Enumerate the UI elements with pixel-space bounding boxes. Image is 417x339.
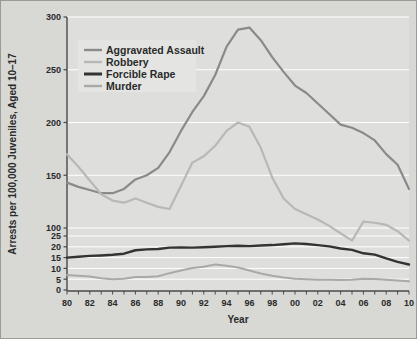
x-tick-label: 92 <box>199 298 209 308</box>
x-tick-label: 88 <box>153 298 163 308</box>
chart-figure: 1001502002503000510152025808284868890929… <box>0 0 417 339</box>
y-tick-label: 25 <box>51 231 61 241</box>
legend-label-2: Forcible Rape <box>106 68 176 80</box>
legend-label-1: Robbery <box>106 56 149 68</box>
x-tick-label: 04 <box>336 298 346 308</box>
x-tick-label: 06 <box>358 298 368 308</box>
line-chart: 1001502002503000510152025808284868890929… <box>0 0 417 339</box>
y-tick-label: 20 <box>51 242 61 252</box>
legend-label-3: Murder <box>106 80 142 92</box>
x-tick-label: 10 <box>404 298 414 308</box>
x-tick-label: 08 <box>381 298 391 308</box>
x-tick-label: 86 <box>130 298 140 308</box>
legend-label-0: Aggravated Assault <box>106 44 205 56</box>
y-tick-label: 5 <box>56 275 61 285</box>
x-tick-label: 02 <box>313 298 323 308</box>
y-tick-label: 0 <box>56 285 61 295</box>
y-tick-label: 200 <box>46 118 61 128</box>
x-tick-label: 00 <box>290 298 300 308</box>
y-axis-title: Arrests per 100,000 Juveniles, Aged 10–1… <box>7 53 18 255</box>
y-tick-label: 15 <box>51 253 61 263</box>
y-tick-label: 250 <box>46 65 61 75</box>
x-tick-label: 98 <box>267 298 277 308</box>
x-tick-label: 80 <box>62 298 72 308</box>
y-tick-label: 150 <box>46 171 61 181</box>
x-tick-label: 82 <box>85 298 95 308</box>
y-tick-label: 10 <box>51 264 61 274</box>
x-tick-label: 90 <box>176 298 186 308</box>
x-tick-label: 84 <box>108 298 118 308</box>
y-tick-label: 300 <box>46 12 61 22</box>
x-tick-label: 96 <box>244 298 254 308</box>
x-axis-title: Year <box>227 314 248 325</box>
x-tick-label: 94 <box>222 298 232 308</box>
